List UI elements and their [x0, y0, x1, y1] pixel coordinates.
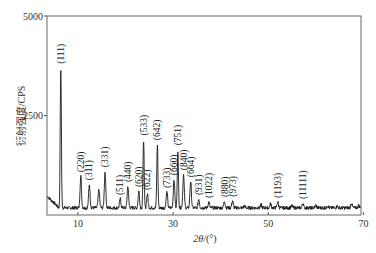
- peak-label: (622): [142, 170, 153, 191]
- x-axis-unit: /(°): [203, 233, 216, 244]
- y-axis-label: 衍射强度/CPS: [13, 86, 28, 147]
- peak-label: (533): [139, 115, 150, 136]
- peak-label: (311): [84, 160, 95, 180]
- peak-labels: (111)(220)(311)(331)(511)(440)(620)(533)…: [56, 44, 309, 199]
- x-axis-label: 2θ/(°): [193, 233, 216, 244]
- peak-label: (1193): [273, 173, 284, 198]
- peak-label: (664): [186, 157, 197, 178]
- x-tick-label: 30: [168, 218, 178, 229]
- peak-label: (440): [123, 162, 134, 183]
- x-tick-label: 70: [358, 218, 368, 229]
- peak-label: (331): [100, 147, 111, 168]
- peak-label: (751): [173, 125, 184, 146]
- y-tick-label: 5000: [23, 11, 43, 22]
- peak-label: (973): [228, 176, 239, 197]
- xrd-chart: 2500500010305070 (111)(220)(311)(331)(51…: [0, 0, 376, 253]
- peak-label: (1022): [204, 173, 215, 198]
- peak-label: (11111): [298, 170, 309, 199]
- x-tick-label: 10: [73, 218, 83, 229]
- peak-label: (111): [56, 44, 67, 64]
- x-tick-label: 50: [263, 218, 273, 229]
- axis-ticks: 2500500010305070: [23, 11, 368, 230]
- peak-label: (642): [152, 120, 163, 141]
- x-axis-var: 2θ: [193, 233, 203, 244]
